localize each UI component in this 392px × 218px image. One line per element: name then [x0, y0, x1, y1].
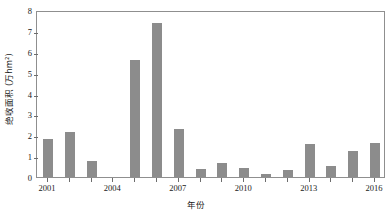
bar [65, 132, 75, 177]
x-tick-label: 2007 [169, 183, 186, 193]
y-tick-mark [34, 96, 38, 97]
y-axis-tick-labels: 012345678 [14, 11, 34, 178]
y-tick-label: 4 [28, 90, 32, 99]
x-axis-tick-labels: 200120042007201020132016 [36, 183, 385, 197]
bar [87, 161, 97, 177]
y-tick-label: 6 [28, 49, 32, 58]
x-tick-mark [156, 178, 157, 182]
bars-layer [37, 12, 384, 177]
x-tick-mark [69, 178, 70, 182]
bar [130, 60, 140, 177]
x-tick-mark [309, 178, 310, 182]
x-tick-label: 2016 [366, 183, 383, 193]
x-tick-mark [134, 178, 135, 182]
bar [261, 174, 271, 177]
x-tick-mark [47, 178, 48, 182]
y-tick-mark [34, 33, 38, 34]
bar [152, 23, 162, 177]
x-tick-mark [374, 178, 375, 182]
y-tick-mark [34, 158, 38, 159]
y-axis-title-text: 绝收面积 (万hm²) [2, 53, 14, 124]
y-tick-mark [34, 75, 38, 76]
y-tick-label: 2 [28, 132, 32, 141]
bar [196, 169, 206, 177]
y-tick-mark [34, 54, 38, 55]
bar-chart: 绝收面积 (万hm²) 012345678 200120042007201020… [0, 0, 392, 218]
y-tick-mark [34, 137, 38, 138]
x-tick-mark [200, 178, 201, 182]
x-tick-label: 2013 [300, 183, 317, 193]
bar [370, 143, 380, 177]
x-tick-label: 2001 [38, 183, 55, 193]
y-tick-label: 3 [28, 111, 32, 120]
x-tick-label: 2010 [235, 183, 252, 193]
bar [348, 151, 358, 177]
bar [217, 163, 227, 177]
x-tick-mark [112, 178, 113, 182]
y-tick-label: 8 [28, 7, 32, 16]
x-axis-title: 年份 [0, 198, 392, 210]
x-tick-label: 2004 [104, 183, 121, 193]
x-tick-mark [221, 178, 222, 182]
x-tick-mark [91, 178, 92, 182]
y-tick-label: 0 [28, 174, 32, 183]
x-tick-mark [243, 178, 244, 182]
bar [326, 166, 336, 177]
y-tick-label: 5 [28, 69, 32, 78]
bar [283, 170, 293, 177]
bar [239, 168, 249, 177]
x-tick-mark [265, 178, 266, 182]
bar [305, 144, 315, 177]
x-tick-mark [287, 178, 288, 182]
y-tick-mark [34, 116, 38, 117]
x-tick-mark [330, 178, 331, 182]
y-tick-label: 1 [28, 153, 32, 162]
bar [43, 139, 53, 177]
y-tick-label: 7 [28, 28, 32, 37]
x-tick-mark [352, 178, 353, 182]
x-tick-mark [178, 178, 179, 182]
bar [174, 129, 184, 177]
plot-area [36, 11, 385, 178]
